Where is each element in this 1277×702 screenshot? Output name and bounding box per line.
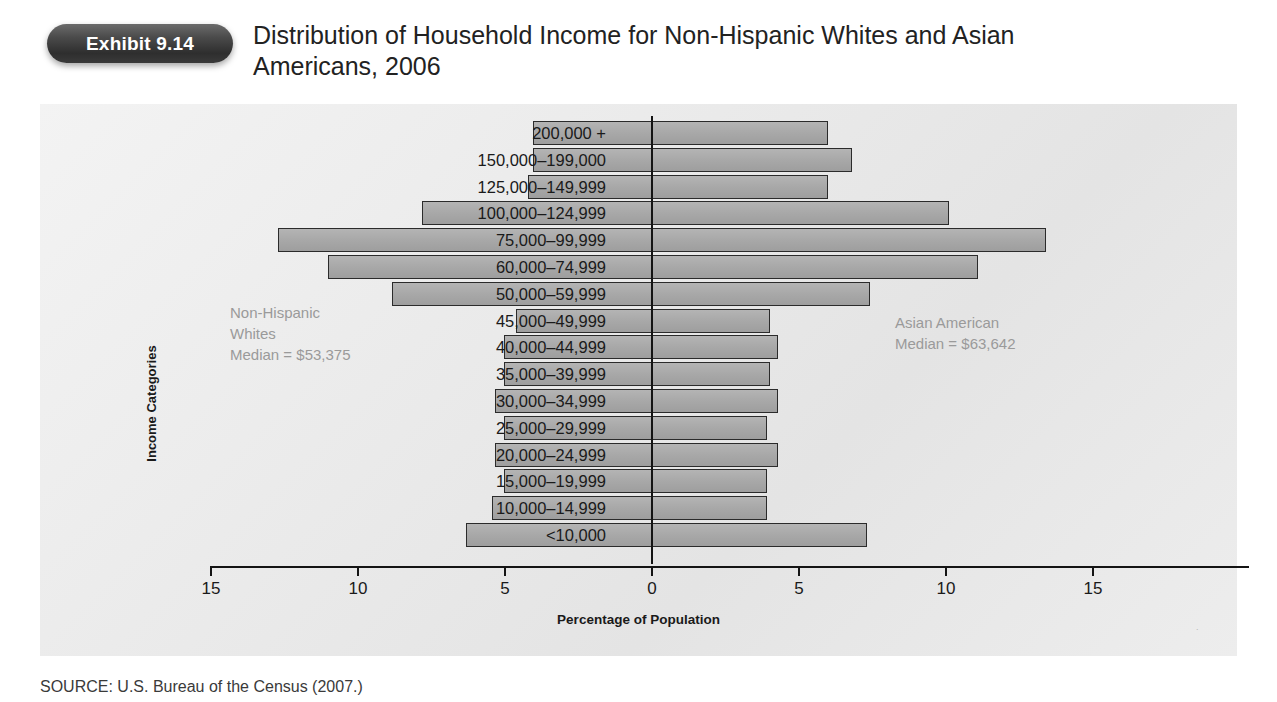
category-label: 200,000 + <box>532 121 611 145</box>
corner-artifact: . <box>1196 622 1199 632</box>
x-axis-tick <box>210 566 212 576</box>
bar-right-asian-american <box>651 523 867 547</box>
bar-right-asian-american <box>651 121 828 145</box>
bar-row: 10,000–14,999 <box>40 495 1237 522</box>
category-label: 100,000–124,999 <box>478 201 611 225</box>
x-axis-tick <box>798 566 800 576</box>
bar-right-asian-american <box>651 175 828 199</box>
bar-row: 60,000–74,999 <box>40 254 1237 281</box>
x-axis-tick <box>357 566 359 576</box>
bar-right-asian-american <box>651 496 767 520</box>
bar-row: 45,000–49,999 <box>40 308 1237 335</box>
category-label: 25,000–29,999 <box>496 416 611 440</box>
bar-row: 150,000–199,000 <box>40 147 1237 174</box>
exhibit-figure: Exhibit 9.14 Distribution of Household I… <box>0 0 1277 702</box>
bar-right-asian-american <box>651 228 1046 252</box>
source-note: SOURCE: U.S. Bureau of the Census (2007.… <box>40 678 363 696</box>
category-label: 20,000–24,999 <box>496 443 611 467</box>
category-label: 150,000–199,000 <box>478 148 611 172</box>
zero-axis-line <box>651 116 653 564</box>
category-label: 125,000–149,999 <box>478 175 611 199</box>
x-axis-tick-label: 15 <box>1063 579 1123 599</box>
category-label: 35,000–39,999 <box>496 362 611 386</box>
category-label: 50,000–59,999 <box>496 282 611 306</box>
bar-right-asian-american <box>651 282 870 306</box>
category-label: 60,000–74,999 <box>496 255 611 279</box>
category-label: 10,000–14,999 <box>496 496 611 520</box>
annotation-non-hispanic-whites: Non-Hispanic Whites Median = $53,375 <box>230 302 351 365</box>
x-axis-title: Percentage of Population <box>40 612 1237 627</box>
bar-row: 75,000–99,999 <box>40 227 1237 254</box>
x-axis-tick <box>651 566 653 576</box>
x-axis-tick-label: 5 <box>475 579 535 599</box>
chart-panel: Income Categories 200,000 +150,000–199,0… <box>40 104 1237 656</box>
bar-row: 25,000–29,999 <box>40 415 1237 442</box>
population-pyramid-chart: Income Categories 200,000 +150,000–199,0… <box>40 104 1237 656</box>
bar-row: 30,000–34,999 <box>40 388 1237 415</box>
annotation-asian-american: Asian American Median = $63,642 <box>895 312 1016 354</box>
page-title: Distribution of Household Income for Non… <box>253 20 1053 82</box>
bar-right-asian-american <box>651 416 767 440</box>
bar-row: <10,000 <box>40 522 1237 549</box>
bar-row: 50,000–59,999 <box>40 281 1237 308</box>
bar-right-asian-american <box>651 309 770 333</box>
x-axis-tick-label: 5 <box>769 579 829 599</box>
bar-right-asian-american <box>651 443 778 467</box>
x-axis-tick-label: 0 <box>622 579 682 599</box>
bar-row: 35,000–39,999 <box>40 361 1237 388</box>
bar-right-asian-american <box>651 255 978 279</box>
bar-right-asian-american <box>651 389 778 413</box>
bar-right-asian-american <box>651 469 767 493</box>
bar-row: 125,000–149,999 <box>40 174 1237 201</box>
category-label: 40,000–44,999 <box>496 335 611 359</box>
bar-right-asian-american <box>651 201 949 225</box>
bar-row: 20,000–24,999 <box>40 442 1237 469</box>
category-label: 30,000–34,999 <box>496 389 611 413</box>
x-axis-tick-label: 10 <box>328 579 388 599</box>
x-axis-tick <box>945 566 947 576</box>
category-label: 15,000–19,999 <box>496 469 611 493</box>
bar-row: 200,000 + <box>40 120 1237 147</box>
x-axis-tick <box>1092 566 1094 576</box>
bar-right-asian-american <box>651 148 852 172</box>
figure-header: Exhibit 9.14 Distribution of Household I… <box>0 0 1277 104</box>
bar-row: 40,000–44,999 <box>40 334 1237 361</box>
exhibit-badge: Exhibit 9.14 <box>47 24 233 63</box>
bar-row: 100,000–124,999 <box>40 200 1237 227</box>
bar-right-asian-american <box>651 335 778 359</box>
bar-row: 15,000–19,999 <box>40 468 1237 495</box>
category-label: <10,000 <box>546 523 611 547</box>
x-axis-tick-label: 15 <box>181 579 241 599</box>
bar-right-asian-american <box>651 362 770 386</box>
bar-rows: 200,000 +150,000–199,000125,000–149,9991… <box>40 120 1237 549</box>
x-axis-tick <box>504 566 506 576</box>
category-label: 45,000–49,999 <box>496 309 611 333</box>
x-axis-tick-label: 10 <box>916 579 976 599</box>
category-label: 75,000–99,999 <box>496 228 611 252</box>
